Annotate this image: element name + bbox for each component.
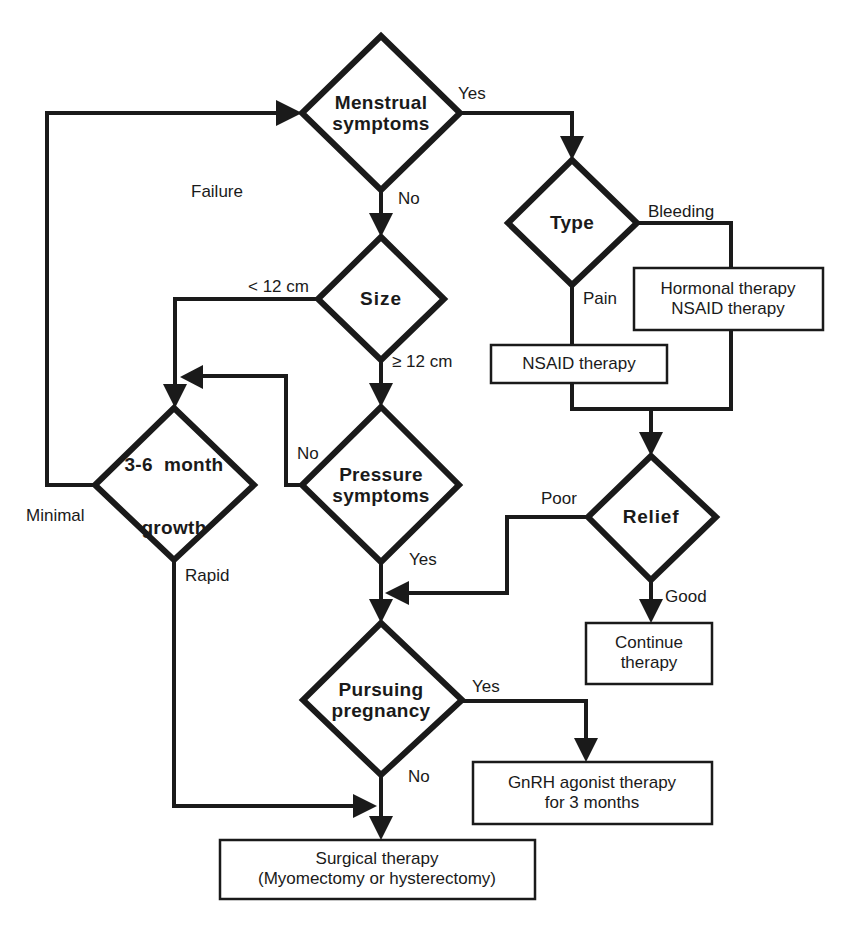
arrow-down-icon bbox=[369, 816, 393, 840]
action-nsaid-text: NSAID therapy bbox=[522, 354, 635, 374]
label-line: symptoms bbox=[332, 113, 429, 134]
action-continue-text: Continue therapy bbox=[615, 633, 683, 674]
label-line: Menstrual bbox=[332, 92, 429, 113]
edge-label-pressure-no: No bbox=[297, 444, 319, 463]
edge-label-pain: Pain bbox=[583, 289, 617, 308]
edge-label-pregnancy-no: No bbox=[408, 767, 430, 786]
edge-label-size-ge: ≥ 12 cm bbox=[392, 352, 452, 371]
arrow-down-icon bbox=[639, 599, 663, 623]
edge-label-size-lt: < 12 cm bbox=[248, 277, 309, 296]
action-gnrh-text: GnRH agonist therapy for 3 months bbox=[508, 773, 676, 814]
text-line: GnRH agonist therapy bbox=[508, 773, 676, 793]
edge-label-rapid: Rapid bbox=[185, 566, 229, 585]
edge-label-menstrual-no: No bbox=[398, 189, 420, 208]
decision-pressure-label: Pressure symptoms bbox=[332, 464, 429, 507]
action-surgical-text: Surgical therapy (Myomectomy or hysterec… bbox=[258, 849, 496, 890]
action-hormonal-text: Hormonal therapy NSAID therapy bbox=[660, 279, 795, 320]
label-line: symptoms bbox=[332, 485, 429, 506]
arrow-down-icon bbox=[163, 384, 187, 408]
edge-pregnancy-yes bbox=[462, 701, 586, 742]
decision-type-label: Type bbox=[550, 212, 594, 233]
edge-label-minimal: Minimal bbox=[26, 506, 85, 525]
decision-growth-label: 3-6 month growth bbox=[124, 411, 223, 560]
edge-label-poor: Poor bbox=[541, 489, 577, 508]
edge-label-failure: Failure bbox=[191, 182, 243, 201]
edge-menstrual-yes bbox=[460, 113, 572, 140]
decision-relief-label: Relief bbox=[623, 506, 680, 527]
label-line: Pursuing bbox=[332, 679, 431, 700]
edge-label-good: Good bbox=[665, 587, 707, 606]
edge-label-pressure-yes: Yes bbox=[409, 550, 437, 569]
decision-size-label: Size bbox=[360, 288, 402, 309]
text-line: for 3 months bbox=[508, 793, 676, 813]
text-line: NSAID therapy bbox=[660, 299, 795, 319]
arrow-right-icon bbox=[353, 794, 377, 818]
edge-label-menstrual-yes: Yes bbox=[458, 84, 486, 103]
label-line: pregnancy bbox=[332, 700, 431, 721]
decision-menstrual-label: Menstrual symptoms bbox=[332, 92, 429, 135]
text-line: Hormonal therapy bbox=[660, 279, 795, 299]
text-line: Surgical therapy bbox=[258, 849, 496, 869]
edge-type-bleeding bbox=[637, 223, 731, 268]
text-line: Continue bbox=[615, 633, 683, 653]
edge-label-pregnancy-yes: Yes bbox=[472, 677, 500, 696]
text-line: (Myomectomy or hysterectomy) bbox=[258, 869, 496, 889]
decision-pregnancy-label: Pursuing pregnancy bbox=[332, 679, 431, 722]
label-line: growth bbox=[124, 517, 223, 538]
edge-label-bleeding: Bleeding bbox=[648, 202, 714, 221]
text-line: therapy bbox=[615, 653, 683, 673]
arrow-down-icon bbox=[574, 738, 598, 762]
label-line: Pressure bbox=[332, 464, 429, 485]
label-line: 3-6 month bbox=[124, 453, 223, 474]
